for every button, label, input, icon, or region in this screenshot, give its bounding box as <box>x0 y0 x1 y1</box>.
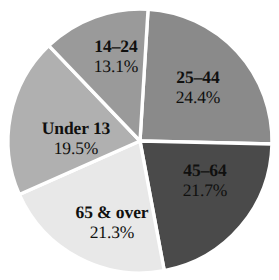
slice-percent-45-64: 21.7% <box>183 181 228 200</box>
slice-percent-14-24: 13.1% <box>94 57 139 76</box>
slice-label-under-13: Under 13 19.5% <box>42 119 110 157</box>
slice-category-25-44: 25–44 <box>176 68 221 87</box>
slice-label-14-24: 14–24 13.1% <box>94 37 139 75</box>
slice-label-65-and-over: 65 & over 21.3% <box>76 203 149 241</box>
slice-category-45-64: 45–64 <box>183 161 228 180</box>
pie-chart: 25–44 24.4% 45–64 21.7% 65 & over 21.3% … <box>0 0 279 280</box>
slice-category-under-13: Under 13 <box>42 119 110 138</box>
slice-percent-65-and-over: 21.3% <box>76 223 149 242</box>
slice-label-25-44: 25–44 24.4% <box>176 68 221 106</box>
slice-percent-under-13: 19.5% <box>42 139 110 158</box>
slice-percent-25-44: 24.4% <box>176 88 221 107</box>
slice-label-45-64: 45–64 21.7% <box>183 161 228 199</box>
slice-category-14-24: 14–24 <box>94 37 139 56</box>
slice-category-65-and-over: 65 & over <box>76 203 149 222</box>
